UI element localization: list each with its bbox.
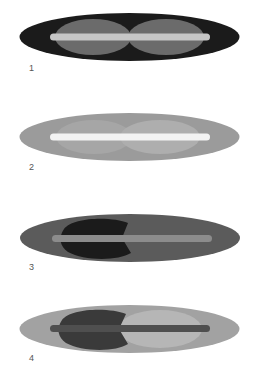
horizontal-bar [52, 235, 212, 242]
horizontal-bar [50, 134, 210, 141]
horizontal-bar [50, 325, 210, 332]
ellipse-diagram-4 [0, 302, 256, 356]
figure-label: 3 [29, 262, 34, 272]
figure-1: 1 [0, 10, 256, 80]
figure-3: 3 [0, 211, 256, 281]
ellipse-diagram-1 [0, 10, 256, 64]
ellipse-diagram-3 [0, 211, 256, 265]
ellipse-diagram-2 [0, 110, 256, 164]
figure-4: 4 [0, 302, 256, 372]
figure-label: 1 [29, 63, 34, 73]
figure-label: 2 [29, 162, 34, 172]
horizontal-bar [50, 34, 210, 41]
figure-2: 2 [0, 110, 256, 180]
figure-label: 4 [29, 353, 34, 363]
